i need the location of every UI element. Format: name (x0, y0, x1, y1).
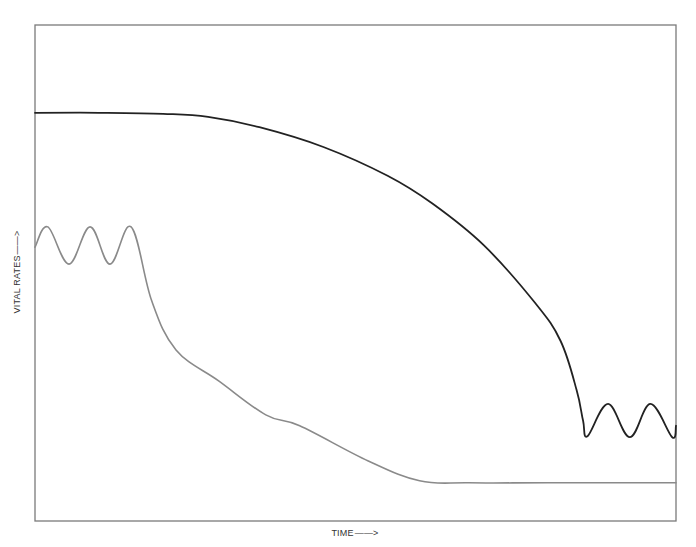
y-axis-arrow: ——> (12, 231, 22, 255)
series-layer (35, 113, 676, 483)
x-axis-arrow: ——> (355, 528, 379, 538)
gray-curve-line (35, 226, 676, 483)
y-axis-label: VITAL RATES——> (12, 231, 22, 314)
plot-frame (35, 25, 676, 521)
black-curve-line (35, 113, 676, 438)
chart-svg: VITAL RATES——> TIME——> (0, 0, 696, 547)
vital-rates-chart: VITAL RATES——> TIME——> (0, 0, 696, 547)
x-axis-label: TIME——> (331, 528, 378, 538)
y-axis-label-group: VITAL RATES——> (12, 231, 22, 314)
